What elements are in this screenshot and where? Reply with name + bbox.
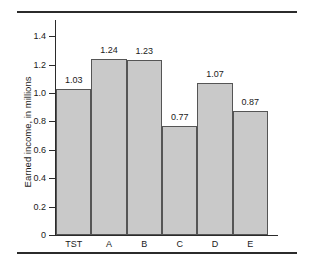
figure: Earned income, in millions 00.20.40.60.8… [0, 0, 312, 269]
bar[interactable] [233, 111, 268, 235]
y-axis-tick [49, 150, 55, 151]
y-axis-tick-label: 0.6 [33, 146, 46, 155]
bar[interactable] [91, 59, 126, 235]
bar[interactable] [197, 83, 232, 235]
bar-value-label: 1.07 [193, 70, 236, 79]
y-axis-tick [49, 207, 55, 208]
y-axis-tick-label: 0.8 [33, 117, 46, 126]
y-axis-tick-label: 1.4 [33, 32, 46, 41]
bar-value-label: 1.23 [123, 47, 166, 56]
y-axis-tick-label: 0.4 [33, 174, 46, 183]
y-axis-title: Earned income, in millions [23, 52, 33, 212]
x-axis-tick-label: D [197, 239, 232, 249]
bar-value-label: 1.03 [52, 76, 95, 85]
x-axis-tick-label: TST [56, 239, 91, 249]
x-axis-tick-label: B [127, 239, 162, 249]
x-axis-line [55, 235, 278, 236]
y-axis-tick-label: 1.2 [33, 61, 46, 70]
bar[interactable] [162, 126, 197, 235]
bottom-rule [17, 252, 297, 254]
y-axis-tick [49, 235, 55, 236]
x-axis-tick-label: C [162, 239, 197, 249]
y-axis-tick-label: 1.0 [33, 89, 46, 98]
y-axis-tick [49, 93, 55, 94]
bar-value-label: 0.77 [158, 113, 201, 122]
bar[interactable] [56, 89, 91, 235]
bar-value-label: 0.87 [229, 98, 272, 107]
top-rule [17, 11, 297, 13]
x-axis-tick-label: E [233, 239, 268, 249]
y-axis-tick [49, 65, 55, 66]
y-axis-tick-label: 0.2 [33, 203, 46, 212]
x-axis-tick-label: A [91, 239, 126, 249]
y-axis-tick-label: 0 [41, 231, 46, 240]
bar[interactable] [127, 60, 162, 235]
y-axis-tick [49, 178, 55, 179]
y-axis-tick [49, 121, 55, 122]
y-axis-tick [49, 36, 55, 37]
